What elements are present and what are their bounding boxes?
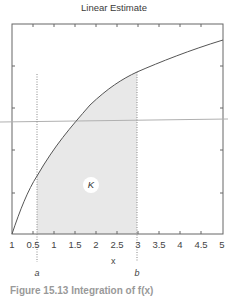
x-tick-label: 4: [177, 239, 182, 250]
x-tick-label: 0.5: [26, 239, 39, 250]
x-tick-label: 3.5: [152, 239, 165, 250]
x-tick-label: 2.5: [110, 239, 123, 250]
x-axis-label: x: [111, 256, 116, 266]
x-tick-label: 1.5: [68, 239, 81, 250]
x-tick-label: 4.5: [194, 239, 207, 250]
x-tick-label: 5: [219, 239, 224, 250]
region-label-k: K: [83, 177, 99, 193]
marker-label-a: a: [34, 268, 39, 278]
x-tick-label: 3: [135, 239, 140, 250]
x-tick-label: 2: [93, 239, 98, 250]
x-tick-label: 1: [9, 239, 14, 250]
x-tick-label: 1: [51, 239, 56, 250]
figure-caption: Figure 15.13 Integration of f(x): [10, 285, 153, 296]
marker-label-b: b: [134, 268, 139, 278]
